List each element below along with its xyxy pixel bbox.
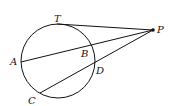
label-P: P bbox=[156, 24, 164, 35]
label-A: A bbox=[9, 56, 17, 67]
secant-PC bbox=[40, 30, 153, 93]
point-P bbox=[151, 28, 155, 32]
circle bbox=[21, 24, 95, 98]
geometry-diagram: T P A B D C bbox=[0, 0, 177, 106]
label-C: C bbox=[28, 95, 36, 106]
label-T: T bbox=[54, 13, 62, 24]
label-B: B bbox=[80, 48, 88, 59]
label-D: D bbox=[95, 65, 104, 76]
